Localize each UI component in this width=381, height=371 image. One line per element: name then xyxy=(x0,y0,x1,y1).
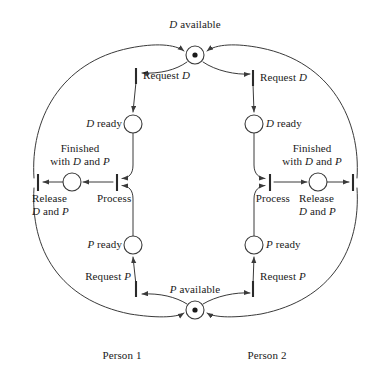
arc-d-ready-left-to-process-left xyxy=(122,133,133,179)
arc-request-d-right-to-d-ready-right xyxy=(253,84,254,112)
label-d-available: D available xyxy=(169,18,221,31)
place-p-ready-right[interactable] xyxy=(245,236,263,254)
label-finished-right: Finishedwith D and P xyxy=(282,142,342,167)
arc-request-d-left-to-d-ready-left xyxy=(133,82,136,112)
arc-d-ready-right-to-process-right xyxy=(254,133,265,179)
label-finished-left: Finishedwith D and P xyxy=(50,142,110,167)
label-request-d-left: Request D xyxy=(143,69,190,82)
petri-net-canvas xyxy=(0,0,381,371)
label-p-ready-left: P ready xyxy=(87,238,122,251)
place-finished-right[interactable] xyxy=(309,173,327,191)
arc-request-p-left-to-p-ready-left xyxy=(133,257,136,285)
label-request-d-right: Request D xyxy=(260,71,307,84)
petri-net-figure: D available Request D Request D D ready … xyxy=(0,0,381,371)
label-request-p-left: Request P xyxy=(85,270,131,283)
label-release-left: ReleaseD and P xyxy=(32,192,69,217)
place-d-ready-right[interactable] xyxy=(245,115,263,133)
token-group xyxy=(192,52,197,312)
label-request-p-right: Request P xyxy=(260,270,306,283)
token-d-available xyxy=(192,52,197,57)
place-finished-left[interactable] xyxy=(63,173,81,191)
label-p-available: P available xyxy=(170,283,220,296)
label-d-ready-right: D ready xyxy=(266,117,302,130)
token-p-available xyxy=(192,307,197,312)
label-request-d-left-text: Request D xyxy=(143,69,190,81)
arc-d-available-to-request-d-right xyxy=(203,62,250,74)
label-process-right: Process xyxy=(256,192,290,205)
label-process-left: Process xyxy=(97,192,131,205)
place-p-ready-left[interactable] xyxy=(124,236,142,254)
label-person-1: Person 1 xyxy=(103,349,142,362)
label-request-d-right-text: Request D xyxy=(260,71,307,83)
label-person-2: Person 2 xyxy=(248,349,287,362)
label-p-ready-right: P ready xyxy=(266,238,301,251)
place-d-ready-left[interactable] xyxy=(124,115,142,133)
arc-request-p-right-to-p-ready-right xyxy=(253,257,254,285)
label-d-ready-left: D ready xyxy=(86,117,122,130)
